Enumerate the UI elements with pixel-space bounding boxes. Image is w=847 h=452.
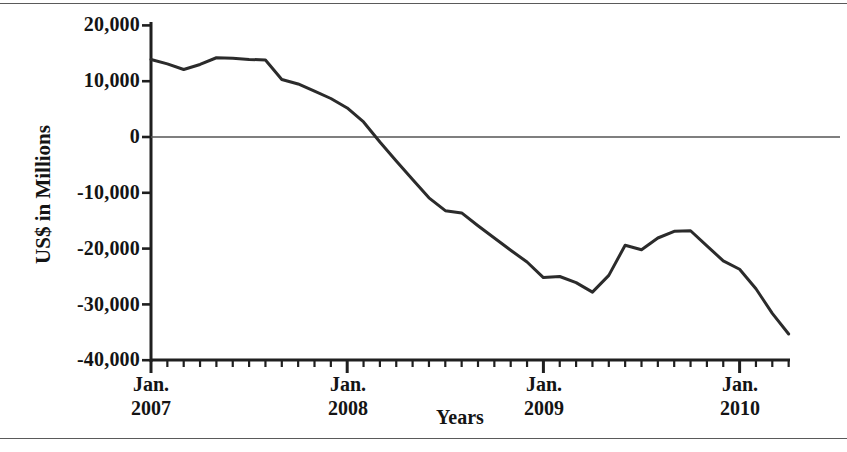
axis-lines [151,22,840,362]
chart-figure: US$ in Millions 20,000 10,000 0 -10,000 … [0,0,847,452]
x-tick-marks [151,360,789,373]
plot-area [0,0,847,452]
data-series-line [151,58,789,334]
